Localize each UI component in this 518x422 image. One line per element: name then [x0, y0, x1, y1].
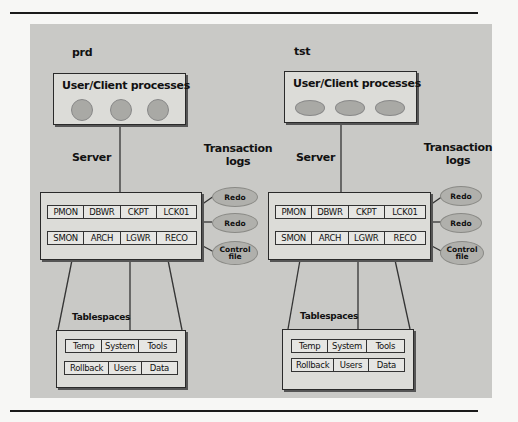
- server-instance-box: PMON DBWR CKPT LCK01 SMON ARCH LGWR RECO: [40, 192, 202, 260]
- tablespace-system: System: [102, 340, 138, 352]
- background-process-row-2: SMON ARCH LGWR RECO: [275, 231, 426, 245]
- background-process-row-1: PMON DBWR CKPT LCK01: [275, 205, 426, 219]
- server-instance-box: PMON DBWR CKPT LCK01 SMON ARCH LGWR RECO: [268, 192, 431, 260]
- tablespace-rollback: Rollback: [65, 362, 109, 374]
- redo-log-1: Redo: [440, 186, 482, 206]
- bottom-rule: [10, 410, 478, 412]
- tablespace-users: Users: [334, 359, 368, 371]
- tablespaces-box: Temp System Tools Rollback Users Data: [282, 329, 414, 390]
- client-process-icon: [147, 99, 169, 121]
- server-label: Server: [72, 151, 111, 164]
- process-pmon: PMON: [48, 206, 84, 218]
- tablespace-tools: Tools: [139, 340, 176, 352]
- tablespaces-box: Temp System Tools Rollback Users Data: [56, 330, 186, 388]
- redo-log-2: Redo: [212, 213, 258, 233]
- client-processes-box: User/Client processes: [53, 73, 186, 125]
- tablespace-data: Data: [142, 362, 177, 374]
- tablespace-row-1: Temp System Tools: [65, 339, 177, 353]
- process-dbwr: DBWR: [312, 206, 348, 218]
- tablespace-rollback: Rollback: [292, 359, 334, 371]
- control-file: Control file: [440, 241, 484, 265]
- process-lgwr: LGWR: [121, 232, 157, 244]
- client-processes-title: User/Client processes: [293, 77, 421, 90]
- transaction-logs-label: Transaction logs: [423, 141, 493, 167]
- process-smon: SMON: [48, 232, 84, 244]
- client-process-icon: [295, 100, 325, 116]
- process-dbwr: DBWR: [84, 206, 120, 218]
- background-process-row-2: SMON ARCH LGWR RECO: [47, 231, 197, 245]
- system-name-prd: prd: [72, 46, 92, 59]
- process-lgwr: LGWR: [349, 232, 385, 244]
- tablespace-data: Data: [369, 359, 404, 371]
- process-lck01: LCK01: [157, 206, 196, 218]
- tablespace-users: Users: [109, 362, 141, 374]
- tablespaces-label: Tablespaces: [72, 312, 130, 322]
- transaction-logs-label: Transaction logs: [203, 142, 273, 168]
- process-pmon: PMON: [276, 206, 312, 218]
- process-reco: RECO: [385, 232, 425, 244]
- client-processes-title: User/Client processes: [62, 79, 190, 92]
- client-process-icon: [110, 99, 132, 121]
- process-arch: ARCH: [312, 232, 348, 244]
- redo-log-1: Redo: [212, 187, 258, 207]
- client-processes-box: User/Client processes: [284, 71, 417, 123]
- tablespace-tools: Tools: [367, 340, 404, 352]
- tablespace-row-1: Temp System Tools: [291, 339, 405, 353]
- process-lck01: LCK01: [385, 206, 425, 218]
- tablespace-row-2: Rollback Users Data: [291, 358, 405, 372]
- tablespaces-label: Tablespaces: [300, 311, 358, 321]
- client-process-icon: [71, 99, 93, 121]
- tablespace-temp: Temp: [66, 340, 102, 352]
- control-file: Control file: [212, 241, 258, 265]
- process-ckpt: CKPT: [121, 206, 157, 218]
- process-arch: ARCH: [84, 232, 120, 244]
- system-name-tst: tst: [294, 45, 310, 58]
- client-process-icon: [375, 100, 405, 116]
- process-ckpt: CKPT: [349, 206, 385, 218]
- background-process-row-1: PMON DBWR CKPT LCK01: [47, 205, 197, 219]
- tablespace-system: System: [328, 340, 366, 352]
- client-process-icon: [335, 100, 365, 116]
- process-reco: RECO: [157, 232, 196, 244]
- process-smon: SMON: [276, 232, 312, 244]
- tablespace-row-2: Rollback Users Data: [64, 361, 178, 375]
- tablespace-temp: Temp: [292, 340, 328, 352]
- redo-log-2: Redo: [440, 213, 482, 233]
- server-label: Server: [296, 151, 335, 164]
